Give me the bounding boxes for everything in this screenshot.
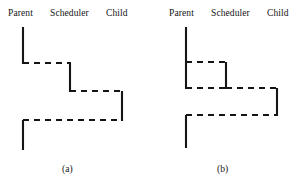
- panel-a: Parent Scheduler Child (a): [0, 0, 149, 188]
- panel-b-column-label-parent: Parent: [169, 8, 194, 19]
- panel-b: Parent Scheduler Child (b): [149, 0, 298, 188]
- panel-a-column-label-scheduler: Scheduler: [50, 8, 89, 19]
- panel-a-caption: (a): [62, 164, 73, 175]
- panel-b-caption: (b): [217, 164, 228, 175]
- panel-b-column-label-child: Child: [267, 8, 289, 19]
- panel-a-column-label-parent: Parent: [8, 8, 33, 19]
- panel-b-column-label-scheduler: Scheduler: [211, 8, 250, 19]
- panel-a-column-label-child: Child: [106, 8, 128, 19]
- panel-b-lifelines: [149, 0, 298, 188]
- figure-root: Parent Scheduler Child (a) Parent Schedu…: [0, 0, 298, 188]
- panel-a-lifelines: [0, 0, 149, 188]
